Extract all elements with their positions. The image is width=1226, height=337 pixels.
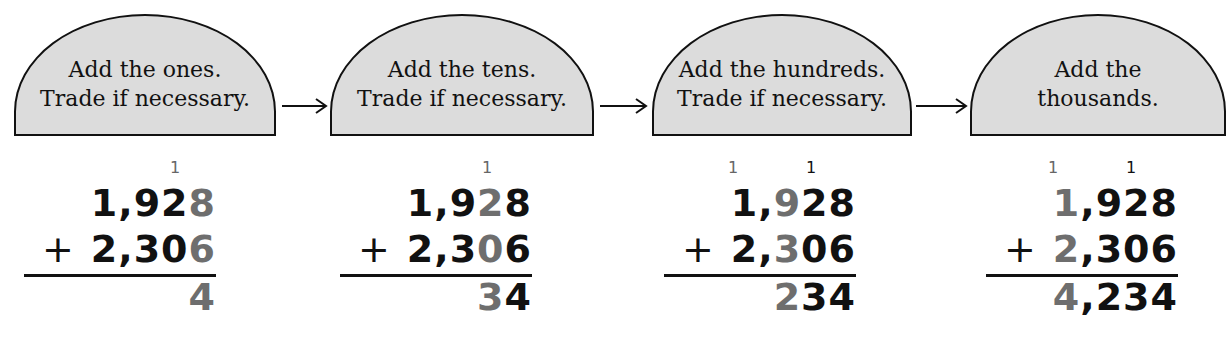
sum: 34 [477, 276, 532, 318]
step-hundreds-title-line1: Add the hundreds. [679, 55, 886, 84]
problem-tens: 1 1,928 +2,306 34 [338, 158, 532, 318]
arrow-right-icon [598, 96, 650, 116]
step-thousands-title-line2: thousands. [1037, 84, 1158, 113]
carry-digit: 1 [170, 158, 180, 177]
arrow-right-icon [280, 96, 330, 116]
carry-digit: 1 [482, 158, 492, 177]
carry-digit: 1 [1048, 158, 1058, 177]
addend-2: +2,306 [1004, 228, 1178, 270]
addend-2: +2,306 [42, 228, 216, 270]
step-ones-title-line2: Trade if necessary. [40, 84, 250, 113]
step-thousands-title-line1: Add the [1054, 55, 1141, 84]
carry-digit: 1 [728, 158, 738, 177]
addend-1: 1,928 [407, 182, 532, 224]
sum: 4 [189, 276, 216, 318]
step-hundreds-title-line2: Trade if necessary. [677, 84, 887, 113]
problem-ones: 1 1,928 +2,306 4 [20, 158, 216, 318]
step-ones-title-line1: Add the ones. [69, 55, 222, 84]
addend-1: 1,928 [91, 182, 216, 224]
sum: 4,234 [1053, 276, 1178, 318]
addend-2: +2,306 [682, 228, 856, 270]
step-tens-title-line2: Trade if necessary. [357, 84, 567, 113]
step-thousands-bubble: Add the thousands. [970, 14, 1226, 136]
sum-line [24, 274, 216, 277]
addend-2: +2,306 [358, 228, 532, 270]
step-ones-bubble: Add the ones. Trade if necessary. [14, 14, 276, 136]
step-tens-title-line1: Add the tens. [388, 55, 536, 84]
sum: 234 [774, 276, 856, 318]
problem-thousands: 1 1 1,928 +2,306 4,234 [984, 158, 1178, 318]
step-tens-bubble: Add the tens. Trade if necessary. [330, 14, 594, 136]
carry-digit: 1 [806, 158, 816, 177]
step-hundreds-bubble: Add the hundreds. Trade if necessary. [652, 14, 912, 136]
addend-1: 1,928 [1053, 182, 1178, 224]
arrow-right-icon [914, 96, 970, 116]
addend-1: 1,928 [731, 182, 856, 224]
problem-hundreds: 1 1 1,928 +2,306 234 [662, 158, 856, 318]
carry-digit: 1 [1126, 158, 1136, 177]
